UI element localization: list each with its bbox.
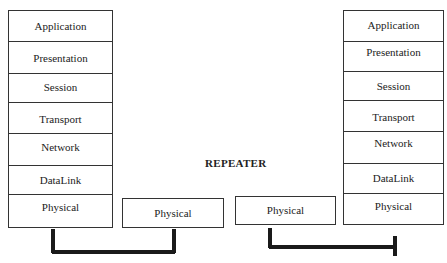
- repeater-label: REPEATER: [205, 157, 266, 169]
- layer-datalink: DataLink: [344, 163, 443, 193]
- left-osi-stack: Application Presentation Session Transpo…: [8, 10, 113, 228]
- layer-physical: Physical: [344, 193, 443, 224]
- layer-physical: Physical: [9, 194, 112, 227]
- right-osi-stack: Application Presentation Session Transpo…: [343, 10, 444, 225]
- layer-transport: Transport: [9, 102, 112, 133]
- left-cable-horizontal: [52, 250, 175, 254]
- layer-transport: Transport: [344, 100, 443, 131]
- layer-presentation: Presentation: [344, 41, 443, 71]
- right-cable-terminator: [393, 236, 397, 256]
- layer-network: Network: [344, 131, 443, 163]
- layer-application: Application: [9, 11, 112, 41]
- layer-session: Session: [9, 73, 112, 102]
- layer-application: Application: [344, 11, 443, 41]
- right-cable-horizontal: [269, 245, 395, 249]
- layer-network: Network: [9, 133, 112, 165]
- repeater-right-physical: Physical: [235, 196, 336, 225]
- left-cable-vertical-b: [172, 229, 176, 253]
- layer-session: Session: [344, 71, 443, 100]
- layer-datalink: DataLink: [9, 165, 112, 194]
- layer-presentation: Presentation: [9, 41, 112, 73]
- repeater-left-physical: Physical: [122, 198, 224, 228]
